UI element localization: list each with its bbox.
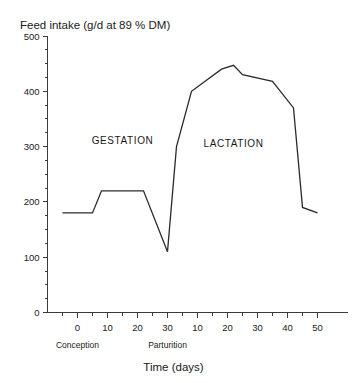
x-axis-ticks <box>63 313 318 318</box>
axes-group <box>48 36 349 313</box>
x-tick-label: 50 <box>312 322 323 333</box>
x-tick-label: 0 <box>75 322 80 333</box>
annotation-lactation: LACTATION <box>203 138 263 149</box>
chart-title: Feed intake (g/d at 89 % DM) <box>20 19 170 31</box>
event-label-parturition: Parturition <box>148 340 187 350</box>
y-axis-ticks <box>43 36 48 313</box>
x-tick-label: 30 <box>162 322 173 333</box>
x-tick-label: 20 <box>132 322 143 333</box>
y-tick-label: 0 <box>34 307 39 318</box>
chart-canvas: Feed intake (g/d at 89 % DM) 01002003004… <box>0 0 354 383</box>
data-series-line <box>63 65 318 251</box>
y-tick-label: 400 <box>24 86 40 97</box>
y-tick-label: 300 <box>24 141 40 152</box>
x-tick-label: 10 <box>192 322 203 333</box>
x-tick-label: 40 <box>282 322 293 333</box>
event-label-conception: Conception <box>56 340 99 350</box>
x-tick-label: 30 <box>252 322 263 333</box>
y-tick-label: 200 <box>24 196 40 207</box>
annotation-gestation: GESTATION <box>92 135 154 146</box>
x-axis-label: Time (days) <box>143 361 203 373</box>
y-tick-label: 100 <box>24 252 40 263</box>
y-axis-tick-labels: 0100200300400500 <box>24 31 40 319</box>
y-tick-label: 500 <box>24 31 40 42</box>
feed-intake-chart: Feed intake (g/d at 89 % DM) 01002003004… <box>0 0 354 383</box>
x-tick-label: 10 <box>102 322 113 333</box>
x-tick-label: 20 <box>222 322 233 333</box>
x-axis-tick-labels: 01020301020304050 <box>75 322 323 333</box>
